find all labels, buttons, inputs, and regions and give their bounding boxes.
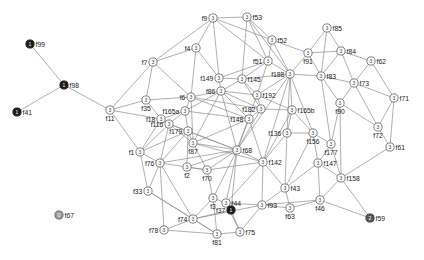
node-circle[interactable] [336, 99, 344, 107]
graph-node-f93[interactable]: 3f93 [258, 201, 277, 209]
node-circle[interactable] [286, 204, 294, 212]
node-circle[interactable] [203, 166, 211, 174]
graph-node-f147[interactable]: 3f147 [314, 159, 337, 167]
node-circle[interactable] [217, 87, 225, 95]
node-circle[interactable] [283, 129, 291, 137]
node-circle[interactable] [245, 115, 253, 123]
node-circle[interactable] [106, 106, 114, 114]
node-circle[interactable] [192, 44, 200, 52]
node-circle[interactable] [209, 194, 217, 202]
node-circle[interactable] [144, 187, 152, 195]
node-circle[interactable] [165, 120, 173, 128]
node-circle[interactable] [189, 139, 197, 147]
graph-node-f61[interactable]: 3f61 [386, 143, 405, 151]
node-circle[interactable] [181, 107, 189, 115]
graph-node-f41[interactable]: 1f41 [13, 108, 32, 116]
graph-node-f99[interactable]: 1f99 [26, 40, 45, 48]
graph-node-f182[interactable]: 3f182 [242, 105, 265, 113]
node-circle[interactable] [258, 201, 266, 209]
node-circle[interactable] [323, 24, 331, 32]
graph-node-f1[interactable]: 3f1 [129, 148, 144, 156]
node-circle[interactable] [288, 106, 296, 114]
node-circle[interactable] [26, 40, 34, 48]
node-circle[interactable] [187, 93, 195, 101]
node-circle[interactable] [13, 108, 21, 116]
graph-node-f78[interactable]: 3f78 [149, 226, 168, 234]
node-circle[interactable] [184, 127, 192, 135]
node-circle[interactable] [259, 158, 267, 166]
node-circle[interactable] [236, 228, 244, 236]
graph-node-f83[interactable]: 3f83 [317, 72, 336, 80]
node-circle[interactable] [314, 159, 322, 167]
node-circle[interactable] [386, 143, 394, 151]
graph-node-f63[interactable]: 3f63 [285, 204, 295, 220]
node-circle[interactable] [156, 159, 164, 167]
graph-node-f72[interactable]: 3f72 [373, 123, 383, 139]
graph-node-f158[interactable]: 3f158 [337, 174, 360, 182]
graph-node-f149[interactable]: 3f149 [200, 74, 223, 82]
graph-node-f73[interactable]: 3f73 [350, 79, 369, 87]
graph-node-f98[interactable]: 1f98 [60, 81, 79, 89]
node-circle[interactable] [316, 196, 324, 204]
graph-node-f136[interactable]: 3f136 [268, 129, 291, 137]
graph-node-f74[interactable]: 3f74 [178, 215, 197, 223]
graph-node-f85[interactable]: 3f85 [323, 24, 342, 32]
node-circle[interactable] [304, 49, 312, 57]
graph-node-f71[interactable]: 3f71 [390, 94, 409, 102]
graph-node-f75[interactable]: 3f75 [236, 228, 255, 236]
graph-node-f51[interactable]: 3f51 [253, 57, 272, 65]
node-circle[interactable] [264, 57, 272, 65]
graph-node-f116[interactable]: 3f116 [151, 120, 173, 128]
node-circle[interactable] [268, 36, 276, 44]
graph-node-f148[interactable]: 3f148 [230, 115, 253, 123]
node-circle[interactable] [149, 58, 157, 66]
node-circle[interactable] [317, 72, 325, 80]
node-circle[interactable] [286, 70, 294, 78]
graph-node-f84[interactable]: 3f84 [337, 47, 356, 55]
node-circle[interactable] [243, 13, 251, 21]
node-circle[interactable] [337, 47, 345, 55]
node-circle[interactable] [55, 211, 63, 219]
graph-node-f67[interactable]: 0f67 [55, 211, 74, 219]
node-circle[interactable] [309, 129, 317, 137]
graph-node-f62[interactable]: 3f62 [367, 57, 386, 65]
graph-node-f188[interactable]: 3f188 [271, 70, 294, 78]
node-circle[interactable] [257, 105, 265, 113]
node-circle[interactable] [233, 146, 241, 154]
graph-node-f7[interactable]: 3f7 [142, 58, 157, 66]
graph-node-f87[interactable]: 3f87 [188, 139, 198, 155]
node-circle[interactable] [238, 75, 246, 83]
node-circle[interactable] [281, 184, 289, 192]
node-circle[interactable] [160, 226, 168, 234]
node-circle[interactable] [227, 206, 235, 214]
graph-node-f165b[interactable]: 3f165b [288, 106, 315, 114]
graph-node-f4[interactable]: 3f4 [185, 44, 200, 52]
graph-node-f52[interactable]: 3f52 [268, 36, 287, 44]
node-circle[interactable] [183, 163, 191, 171]
graph-node-f81[interactable]: 3f81 [212, 230, 222, 246]
node-circle[interactable] [136, 148, 144, 156]
node-circle[interactable] [390, 94, 398, 102]
graph-node-f156[interactable]: 3f156 [306, 129, 319, 145]
graph-node-f165a[interactable]: 3f165a [162, 107, 189, 115]
node-circle[interactable] [253, 91, 261, 99]
graph-node-f43[interactable]: 3f43 [281, 184, 300, 192]
graph-node-f142[interactable]: 3f142 [259, 158, 282, 166]
node-circle[interactable] [367, 57, 375, 65]
graph-node-f59[interactable]: 2f59 [366, 214, 385, 222]
node-circle[interactable] [60, 81, 68, 89]
node-circle[interactable] [374, 123, 382, 131]
node-circle[interactable] [366, 214, 374, 222]
graph-node-f33[interactable]: 3f33 [133, 187, 152, 195]
node-circle[interactable] [350, 79, 358, 87]
node-circle[interactable] [337, 174, 345, 182]
graph-node-f192[interactable]: 3f192 [253, 91, 276, 99]
graph-node-f179[interactable]: 3f179 [169, 127, 192, 135]
graph-node-f53[interactable]: 3f53 [243, 13, 262, 21]
graph-node-f68[interactable]: 3f68 [233, 146, 252, 154]
node-circle[interactable] [189, 215, 197, 223]
node-circle[interactable] [327, 140, 335, 148]
node-circle[interactable] [213, 230, 221, 238]
graph-node-f145[interactable]: 3f145 [238, 75, 261, 83]
graph-node-f177[interactable]: 3f177 [324, 140, 337, 156]
